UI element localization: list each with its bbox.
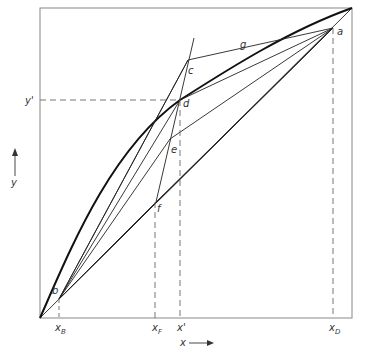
- line-b-e: [59, 139, 170, 299]
- line-c-a: [188, 28, 333, 60]
- x-axis-label: x: [179, 337, 186, 348]
- xB-label: xB: [54, 322, 66, 336]
- x-arrow-head: [207, 340, 214, 346]
- point-label-f: f: [157, 203, 162, 214]
- line-b-d: [59, 100, 180, 299]
- point-label-c: c: [188, 65, 194, 76]
- line-d-a: [180, 28, 333, 100]
- point-label-b: b: [52, 285, 58, 296]
- line-f-a-2: [156, 28, 333, 202]
- equilibrium-diagram: a b c d e f g y' y xB xF x' xD x: [0, 0, 365, 356]
- y-arrow-head: [12, 148, 18, 156]
- line-f-a: [59, 202, 156, 299]
- point-label-g: g: [240, 39, 246, 50]
- xD-label: xD: [328, 322, 341, 336]
- xF-label: xF: [151, 322, 163, 336]
- line-b-g: [59, 60, 188, 299]
- point-label-e: e: [171, 144, 177, 155]
- q-line: [156, 38, 194, 202]
- line-e-a: [170, 28, 333, 139]
- point-label-a: a: [337, 26, 343, 37]
- y-axis-label: y: [10, 177, 18, 188]
- xprime-label: x': [176, 322, 186, 333]
- point-label-d: d: [183, 98, 190, 109]
- yprime-label: y': [24, 95, 34, 106]
